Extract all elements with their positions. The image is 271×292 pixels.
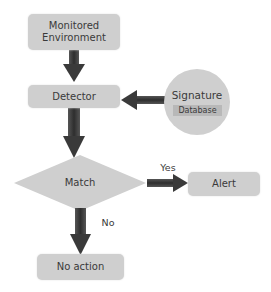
match-label: Match <box>50 176 110 190</box>
monitored-label-line1: Monitored <box>49 20 99 32</box>
arrow-match-to-no-action <box>70 208 91 255</box>
no-edge-label: No <box>98 216 118 230</box>
detector-label: Detector <box>28 85 120 108</box>
arrow-match-to-alert <box>147 174 188 192</box>
signature-label: Signature <box>166 88 228 102</box>
monitored-label-line2: Environment <box>42 32 106 44</box>
no-action-label: No action <box>37 254 124 280</box>
arrow-detector-to-match <box>63 108 85 158</box>
alert-label: Alert <box>188 172 260 196</box>
yes-edge-label: Yes <box>155 161 181 175</box>
database-label: Database <box>173 105 222 116</box>
arrow-monitored-to-detector <box>63 50 85 82</box>
signature-database-circle <box>164 69 230 135</box>
arrow-signature-to-detector <box>121 90 165 110</box>
monitored-environment-label: Monitored Environment <box>28 14 120 50</box>
